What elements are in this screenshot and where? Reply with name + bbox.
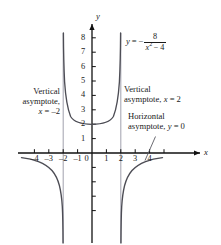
x-axis-label: x xyxy=(204,148,208,157)
right-asymptote-text: asymptote, xyxy=(124,94,161,104)
y-tick-label-8: 8 xyxy=(78,34,88,42)
right-vertical-asymptote-annotation: Vertical asymptote, x = 2 xyxy=(124,85,181,105)
x-tick-label-3: 3 xyxy=(129,155,141,163)
x-tick-label-0: 0 xyxy=(81,155,93,163)
equation-numerator: 8 xyxy=(144,33,167,42)
right-asymptote-line2: asymptote, x = 2 xyxy=(124,95,181,105)
right-asymptote-value: = 2 xyxy=(170,94,181,104)
equation-denominator-rest: − 4 xyxy=(154,43,165,52)
y-tick-label-7: 7 xyxy=(78,48,88,56)
y-tick-label-5: 5 xyxy=(78,77,88,85)
left-asymptote-line3: x = –2 xyxy=(14,107,60,117)
horizontal-asymptote-annotation: Horizontal asymptote, y = 0 xyxy=(128,112,185,132)
equation-denominator: x2− 4 xyxy=(144,42,167,52)
right-asymptote-variable: x xyxy=(164,94,168,104)
equation-denominator-exponent: 2 xyxy=(149,41,152,47)
horizontal-asymptote-text: asymptote, xyxy=(128,121,165,131)
x-tick-label--4: –4 xyxy=(28,155,40,163)
horizontal-asymptote-line2: asymptote, y = 0 xyxy=(128,122,185,132)
left-vertical-asymptote-annotation: Vertical asymptote, x = –2 xyxy=(14,87,60,116)
plot-canvas xyxy=(0,0,221,245)
y-tick-label-6: 6 xyxy=(78,63,88,71)
equation-equals: = xyxy=(132,36,137,46)
x-tick-label-4: 4 xyxy=(144,155,156,163)
curve-right-branch xyxy=(121,158,163,243)
x-axis-arrowhead xyxy=(194,150,200,155)
graph-figure: y x –4 –3 –2 –1 0 1 2 3 4 1 2 3 4 5 6 7 … xyxy=(0,0,221,245)
horizontal-asymptote-value: = 0 xyxy=(174,121,185,131)
y-tick-label-1: 1 xyxy=(78,135,88,143)
left-asymptote-value: = –2 xyxy=(44,106,60,116)
x-tick-label--2: –2 xyxy=(57,155,69,163)
equation-lhs: y xyxy=(126,36,130,46)
x-tick-label-2: 2 xyxy=(115,155,127,163)
horizontal-asymptote-variable: y xyxy=(168,121,172,131)
x-tick-label-1: 1 xyxy=(100,155,112,163)
y-axis-arrowhead xyxy=(89,24,94,30)
x-tick-label--3: –3 xyxy=(43,155,55,163)
curve-left-branch xyxy=(22,158,64,243)
y-tick-label-4: 4 xyxy=(78,91,88,99)
y-axis-label: y xyxy=(96,12,100,21)
equation-fraction: 8 x2− 4 xyxy=(144,33,167,52)
y-tick-label-3: 3 xyxy=(78,106,88,114)
equation-label: y=− 8 x2− 4 xyxy=(126,33,166,52)
left-asymptote-variable: x xyxy=(38,106,42,116)
y-tick-label-2: 2 xyxy=(78,120,88,128)
